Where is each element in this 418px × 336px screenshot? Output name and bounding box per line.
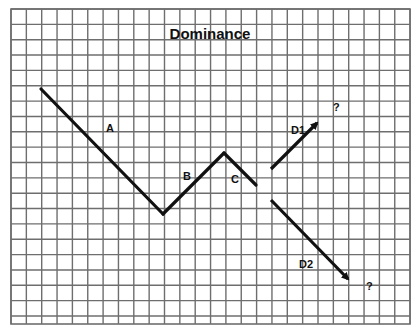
segment-label-c: C	[231, 173, 239, 185]
segment-label-a: A	[106, 122, 114, 134]
arrow-label-d1: D1	[291, 124, 305, 136]
dominance-diagram: Dominance ABC D1?D2?	[0, 0, 418, 336]
question-mark-d1: ?	[333, 101, 340, 113]
diagram-title: Dominance	[170, 25, 251, 42]
question-mark-d2: ?	[366, 280, 373, 292]
segment-label-b: B	[183, 170, 191, 182]
arrow-label-d2: D2	[299, 258, 313, 270]
